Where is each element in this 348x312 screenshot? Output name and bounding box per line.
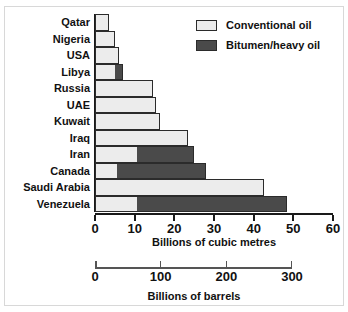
primary-axis-title: Billions of cubic metres (95, 236, 333, 248)
y-axis-tick-label: Saudi Arabia (23, 182, 90, 193)
bar-segment-bitumen (117, 163, 206, 180)
bar-row: USA (95, 47, 119, 64)
bar-segment-conventional (95, 14, 109, 31)
bar-segment-conventional (95, 130, 188, 147)
secondary-axis-line (95, 267, 292, 269)
secondary-axis-tick-label: 200 (215, 270, 237, 283)
y-axis-tick-label: Iraq (70, 132, 90, 143)
legend-item: Bitumen/heavy oil (196, 40, 320, 51)
bar-segment-conventional (95, 113, 160, 130)
bar-segment-conventional (95, 31, 115, 48)
legend-item: Conventional oil (196, 20, 320, 31)
y-axis-tick-label: Qatar (61, 17, 90, 28)
primary-axis-tick-label: 40 (246, 222, 260, 235)
primary-axis-tick-label: 60 (326, 222, 340, 235)
y-axis-tick-label: Canada (50, 165, 90, 176)
bar-row: Iraq (95, 130, 188, 147)
primary-x-axis: 0102030405060 (95, 213, 333, 214)
bar-segment-conventional (95, 80, 153, 97)
y-axis-tick-label: Venezuela (37, 198, 90, 209)
bar-row: Saudi Arabia (95, 179, 264, 196)
y-axis-tick-label: Nigeria (53, 33, 90, 44)
bar-row: Russia (95, 80, 153, 97)
secondary-axis-tick (226, 261, 228, 267)
bar-segment-bitumen (137, 146, 195, 163)
secondary-axis-tick (291, 261, 293, 267)
y-axis-tick-label: Iran (70, 149, 90, 160)
legend-swatch-bitumen (196, 40, 217, 51)
bar-segment-conventional (95, 64, 115, 81)
secondary-axis-title: Billions of barrels (75, 290, 313, 302)
secondary-axis-tick-label: 300 (281, 270, 303, 283)
bar-row: Libya (95, 64, 123, 81)
secondary-axis-tick-label: 100 (150, 270, 172, 283)
chart-legend: Conventional oilBitumen/heavy oil (196, 20, 320, 60)
secondary-axis-tick-label: 0 (91, 270, 98, 283)
primary-axis-tick-label: 20 (167, 222, 181, 235)
primary-axis-tick-label: 30 (207, 222, 221, 235)
secondary-x-axis: 0100200300 (95, 267, 292, 268)
bar-segment-conventional (95, 163, 117, 180)
bar-segment-bitumen (115, 64, 123, 81)
primary-axis-tick-label: 10 (127, 222, 141, 235)
chart-figure: QatarNigeriaUSALibyaRussiaUAEKuwaitIraqI… (0, 0, 348, 312)
y-axis-tick-label: Russia (54, 83, 90, 94)
legend-label: Conventional oil (226, 20, 312, 31)
secondary-axis-tick (95, 261, 97, 267)
bar-segment-conventional (95, 196, 137, 213)
y-axis-tick-label: Libya (61, 66, 90, 77)
bar-row: Kuwait (95, 113, 160, 130)
bar-row: Venezuela (95, 196, 287, 213)
y-axis-tick-label: Kuwait (54, 116, 90, 127)
bar-segment-conventional (95, 97, 156, 114)
y-axis-tick-label: USA (67, 50, 90, 61)
secondary-axis-tick (160, 261, 162, 267)
bar-segment-conventional (95, 47, 119, 64)
legend-label: Bitumen/heavy oil (226, 40, 320, 51)
legend-swatch-conventional (196, 20, 217, 31)
bar-row: UAE (95, 97, 156, 114)
bar-segment-bitumen (137, 196, 288, 213)
bar-row: Nigeria (95, 31, 115, 48)
bar-segment-conventional (95, 179, 264, 196)
primary-axis-tick-label: 0 (91, 222, 98, 235)
bar-row: Canada (95, 163, 206, 180)
bar-segment-conventional (95, 146, 137, 163)
y-axis-tick-label: UAE (67, 99, 90, 110)
bar-row: Qatar (95, 14, 109, 31)
primary-axis-tick-label: 50 (286, 222, 300, 235)
bar-row: Iran (95, 146, 194, 163)
